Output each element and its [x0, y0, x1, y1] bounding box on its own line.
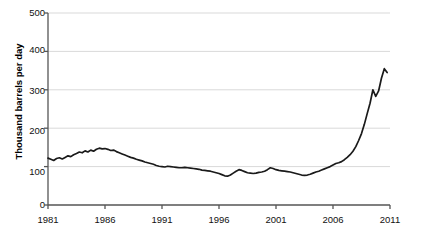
axis-lines — [48, 13, 390, 205]
plot-area — [0, 0, 422, 244]
axis-ticks — [44, 13, 390, 209]
gridlines — [48, 13, 390, 167]
data-series-line — [48, 69, 387, 177]
chart-container: Thousand barrels per day 500 400 300 200… — [0, 0, 422, 244]
